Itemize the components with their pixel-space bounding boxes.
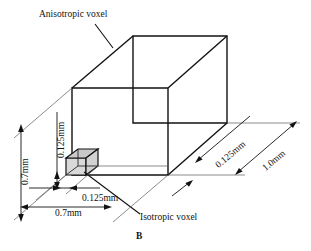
label-anisotropic-voxel: Anisotropic voxel	[39, 10, 107, 20]
label-dim-bottom-width: 0.7mm	[55, 209, 82, 219]
guide-voxel-bottom-diag	[36, 175, 66, 200]
figure-caption: B	[136, 232, 142, 242]
label-dim-left-height: 0.7mm	[21, 158, 31, 185]
label-dim-bottom-small-width: 0.125mm	[82, 194, 118, 204]
figure-anisotropic-isotropic-voxel: Anisotropic voxel Isotropic voxel B 0.7m…	[0, 0, 311, 251]
label-isotropic-voxel: Isotropic voxel	[140, 213, 197, 223]
anisotropic-leader-line	[95, 24, 113, 48]
box-edge-top-right	[168, 36, 227, 88]
box-edge-top-left	[72, 36, 133, 88]
dim-corner-pointer	[172, 180, 193, 196]
label-dim-left-small-height: 0.125mm	[57, 122, 67, 158]
isotropic-voxel	[66, 149, 98, 175]
dim-bottom-small-width	[29, 185, 100, 191]
